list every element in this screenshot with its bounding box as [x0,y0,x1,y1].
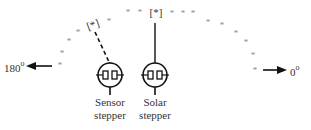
arc-star-marker: * [234,29,239,38]
sensor-direction-dashed-line [95,32,109,62]
solar-label-line2: stepper [133,109,177,122]
arc-star-marker: * [138,8,143,17]
sensor-label-line2: stepper [88,109,132,122]
arc-star-marker: * [107,17,112,26]
sun-tracker-diagram: **************** [*] [*] 180o 0o Sensor … [0,0,311,130]
sensor-label-line1: Sensor [88,96,132,109]
arc-star-marker: * [220,21,225,30]
arc-star-marker: * [191,9,196,18]
arc-star-marker: * [181,9,186,18]
arc-star-marker: * [76,28,81,37]
left-arrow-head-icon [26,62,36,70]
solar-stepper-icon [141,63,169,95]
arc-star-marker: * [206,18,211,27]
angle-0-label: 0o [290,64,300,78]
arc-star-marker: * [253,66,258,75]
arc-star-marker: * [251,51,256,60]
arc-star-marker: * [58,61,63,70]
arc-star-marker: * [67,37,72,46]
right-arrow-head-icon [277,66,287,74]
angle-180-label: 180o [4,60,25,74]
arc-star-marker: * [60,49,65,58]
solar-position-marker: [*] [150,7,163,18]
arc-star-marker: * [170,9,175,18]
arc-star-marker: * [126,8,131,17]
sensor-stepper-icon [96,62,124,95]
solar-stepper-label: Solar stepper [133,96,177,122]
solar-label-line1: Solar [133,96,177,109]
sensor-stepper-label: Sensor stepper [88,96,132,122]
arc-star-marker: * [244,38,249,47]
